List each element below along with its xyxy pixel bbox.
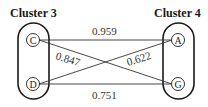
edge-label-d-g: 0.751	[92, 89, 117, 101]
cluster-4-title: Cluster 4	[154, 6, 201, 20]
cluster-diagram: Cluster 3 Cluster 4 0.959 0.847 0.622 0.…	[0, 0, 208, 107]
edge-label-d-a: 0.622	[125, 49, 152, 68]
cluster-3-title: Cluster 3	[10, 6, 57, 20]
svg-text:G: G	[174, 79, 181, 90]
edge-label-c-a: 0.959	[92, 25, 117, 37]
node-c: C	[27, 34, 40, 47]
svg-text:C: C	[30, 35, 37, 46]
svg-text:D: D	[29, 79, 36, 90]
node-d: D	[27, 78, 40, 91]
node-g: G	[172, 78, 185, 91]
edge-label-c-g: 0.847	[54, 49, 82, 68]
svg-text:A: A	[174, 35, 182, 46]
node-a: A	[172, 34, 185, 47]
